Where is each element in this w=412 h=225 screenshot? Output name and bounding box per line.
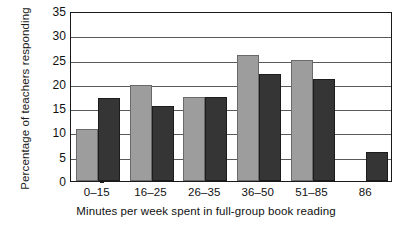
x-tick-label: 51–85 — [285, 185, 339, 199]
x-tick-label: 26–35 — [177, 185, 231, 199]
x-tick-label: 36–50 — [231, 185, 285, 199]
bar — [237, 55, 259, 181]
bar — [152, 106, 174, 181]
bar — [205, 97, 227, 181]
y-tick-label: 0 — [34, 176, 66, 188]
y-tick-label: 15 — [34, 103, 66, 115]
y-tick-mark — [100, 182, 104, 183]
x-axis-tick-labels: 0–1516–2526–3536–5051–8586 — [70, 185, 392, 201]
bar — [76, 129, 98, 181]
y-tick-label: 35 — [34, 6, 66, 18]
x-tick-label: 16–25 — [124, 185, 178, 199]
bar-group-container — [71, 13, 391, 181]
y-tick-label: 10 — [34, 127, 66, 139]
bar — [98, 98, 120, 181]
y-tick-label: 5 — [34, 152, 66, 164]
bar — [183, 97, 205, 181]
y-axis-title: Percentage of teachers responding — [16, 1, 34, 196]
bar — [366, 152, 388, 181]
y-axis-tick-labels: 05101520253035 — [34, 0, 66, 225]
y-tick-label: 30 — [34, 30, 66, 42]
y-tick-label: 20 — [34, 79, 66, 91]
bar — [313, 79, 335, 181]
bar-chart-figure: Percentage of teachers responding 051015… — [0, 0, 412, 225]
bar — [130, 85, 152, 181]
bar — [291, 60, 313, 181]
x-tick-label: 86 — [338, 185, 392, 199]
plot-area — [70, 12, 392, 182]
y-tick-label: 25 — [34, 55, 66, 67]
x-axis-title: Minutes per week spent in full-group boo… — [0, 205, 412, 217]
x-tick-label: 0–15 — [70, 185, 124, 199]
bar — [259, 74, 281, 181]
